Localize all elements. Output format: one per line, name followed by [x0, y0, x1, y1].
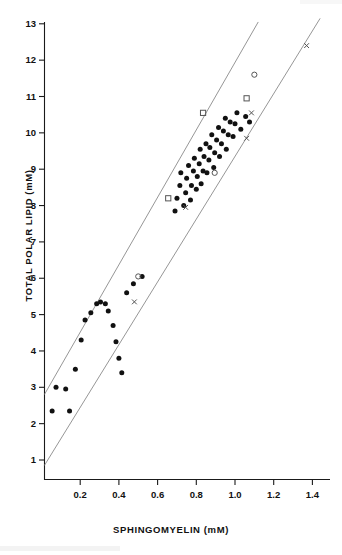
x-tick-label: 0.4 [99, 489, 139, 500]
x-tick-label: 0.8 [176, 489, 216, 500]
data-point-open-circle [252, 72, 257, 77]
data-point-filled-circle [113, 339, 118, 344]
y-tick-label: 13 [0, 18, 36, 29]
data-point-filled-circle [198, 147, 203, 152]
data-point-filled-circle [199, 181, 204, 186]
y-tick-label: 11 [0, 91, 36, 102]
data-point-filled-circle [204, 170, 209, 175]
data-point-filled-circle [116, 356, 121, 361]
x-tick-label: 0.2 [60, 489, 100, 500]
y-axis-title: TOTAL POLAR LIPID (mM) [23, 126, 34, 346]
data-point-filled-circle [217, 154, 222, 159]
x-tick-label: 0.6 [138, 489, 178, 500]
data-point-open-circle [212, 170, 217, 175]
data-point-filled-circle [243, 114, 248, 119]
data-point-filled-circle [103, 301, 108, 306]
data-point-filled-circle [131, 281, 136, 286]
x-axis-title: SPHINGOMYELIN (mM) [0, 524, 342, 535]
data-point-filled-circle [209, 132, 214, 137]
x-tick-label: 1.0 [215, 489, 255, 500]
x-tick-label: 1.4 [292, 489, 332, 500]
data-point-filled-circle [207, 145, 212, 150]
data-point-filled-circle [54, 385, 59, 390]
data-point-filled-circle [226, 132, 231, 137]
data-point-filled-circle [98, 299, 103, 304]
data-point-filled-circle [219, 141, 224, 146]
y-tick-label: 1 [0, 454, 36, 465]
y-tick-label: 4 [0, 345, 36, 356]
y-tick-label: 12 [0, 54, 36, 65]
data-point-filled-circle [174, 196, 179, 201]
data-point-filled-circle [88, 310, 93, 315]
data-point-cross [304, 43, 309, 48]
confidence-band-lines [44, 18, 320, 465]
upper-confidence-line [44, 22, 258, 395]
scan-artifact [0, 546, 120, 551]
data-point-filled-circle [188, 198, 193, 203]
data-point-filled-circle [247, 119, 252, 124]
data-point-filled-circle [221, 129, 226, 134]
data-point-filled-circle [119, 370, 124, 375]
data-point-open-square [244, 96, 249, 101]
chart-canvas [0, 0, 342, 555]
data-point-filled-circle [178, 170, 183, 175]
data-point-filled-circle [124, 290, 129, 295]
data-point-filled-circle [184, 176, 189, 181]
data-point-filled-circle [212, 150, 217, 155]
data-point-filled-circle [224, 147, 229, 152]
y-tick-label: 2 [0, 418, 36, 429]
data-point-filled-circle [106, 308, 111, 313]
data-point-filled-circle [83, 318, 88, 323]
data-point-filled-circle [206, 158, 211, 163]
data-point-filled-circle [173, 209, 178, 214]
data-point-cross [132, 299, 137, 304]
scan-artifact-top [300, 0, 342, 4]
data-point-filled-circle [223, 116, 228, 121]
data-point-filled-circle [238, 127, 243, 132]
data-point-cross [244, 136, 249, 141]
data-point-filled-circle [50, 408, 55, 413]
data-point-filled-circle [203, 141, 208, 146]
data-point-filled-circle [231, 134, 236, 139]
data-point-filled-circle [186, 163, 191, 168]
data-point-filled-circle [79, 338, 84, 343]
x-tick-label: 1.2 [254, 489, 294, 500]
data-point-filled-circle [228, 119, 233, 124]
y-tick-label: 3 [0, 381, 36, 392]
axis-ticks [39, 24, 312, 485]
data-point-filled-circle [189, 183, 194, 188]
data-point-filled-circle [197, 161, 202, 166]
data-point-filled-circle [211, 165, 216, 170]
lower-confidence-line [44, 18, 320, 465]
data-point-filled-circle [234, 110, 239, 115]
data-point-filled-circle [111, 323, 116, 328]
scatter-plot-figure: 123456789101112130.20.40.60.81.01.21.4 S… [0, 0, 342, 555]
data-point-open-square [166, 196, 171, 201]
data-point-filled-circle [73, 367, 78, 372]
data-point-filled-circle [183, 190, 188, 195]
data-point-filled-circle [177, 183, 182, 188]
data-point-filled-circle [194, 187, 199, 192]
data-point-filled-circle [192, 156, 197, 161]
data-point-filled-circle [202, 154, 207, 159]
data-point-filled-circle [233, 121, 238, 126]
axis-lines [45, 22, 331, 480]
data-point-filled-circle [214, 138, 219, 143]
data-point-filled-circle [63, 387, 68, 392]
data-point-filled-circle [195, 174, 200, 179]
data-point-filled-circle [191, 169, 196, 174]
data-point-cross [249, 110, 254, 115]
data-point-filled-circle [216, 125, 221, 130]
data-point-filled-circle [67, 408, 72, 413]
